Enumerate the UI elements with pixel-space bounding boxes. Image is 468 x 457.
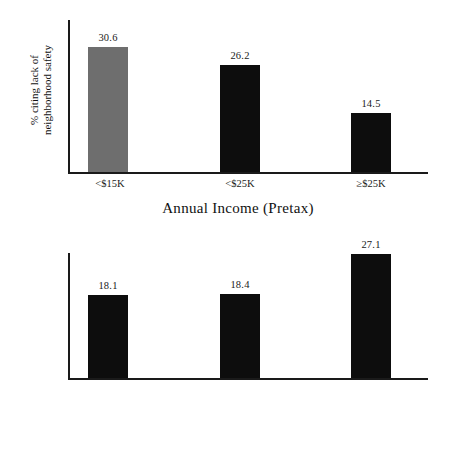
x-tick-label-income-2-text: <$25K (194, 176, 286, 191)
x-tick-label-income-3: ≥$25K (325, 176, 417, 191)
x-axis-line-bmi (68, 378, 428, 380)
bar-group-annual-income: 30.6 26.2 14.5 (70, 20, 398, 172)
bar-value-income-over-25k: 14.5 (327, 98, 415, 110)
y-axis-title-line1-income: % citing lack of (28, 10, 41, 170)
bar-value-income-under-15k: 30.6 (64, 32, 152, 44)
x-axis-line-annual-income (68, 172, 428, 174)
y-axis-title-line2-income: neighborhood safety (41, 10, 54, 170)
x-tick-label-income-1: <$15K (64, 176, 156, 191)
bar-income-over-25k[interactable] (351, 113, 391, 172)
y-axis-title-annual-income: % citing lack of neighborhood safety (28, 10, 54, 170)
bar-bmi-over[interactable] (351, 254, 391, 378)
plot-area-annual-income: 30.6 26.2 14.5 (68, 20, 398, 172)
bar-income-under-15k[interactable] (88, 47, 128, 172)
y-axis-title-line1-bmi: % citing lack of (28, 445, 41, 457)
bar-income-under-25k[interactable] (220, 65, 260, 172)
bar-value-bmi-normal: 18.4 (196, 279, 284, 291)
bar-slot-income-3: 14.5 (351, 20, 391, 172)
x-tick-label-income-2: <$25K (194, 176, 286, 191)
bar-group-bmi: 18.1 18.4 27.1 (70, 253, 398, 378)
bar-slot-bmi-2: 18.4 (220, 253, 260, 378)
chart-panel-body-mass-index: 18.1 18.4 27.1 Under ≤$19 Normal 20–27 O… (0, 230, 468, 457)
x-axis-title-annual-income: Annual Income (Pretax) (68, 200, 408, 217)
bar-value-bmi-over: 27.1 (327, 239, 415, 251)
bar-slot-bmi-3: 27.1 (351, 253, 391, 378)
bar-slot-bmi-1: 18.1 (88, 253, 128, 378)
x-tick-label-income-1-text: <$15K (64, 176, 156, 191)
bar-bmi-normal[interactable] (220, 294, 260, 378)
bar-value-income-under-25k: 26.2 (196, 50, 284, 62)
bar-slot-income-2: 26.2 (220, 20, 260, 172)
plot-area-body-mass-index: 18.1 18.4 27.1 (68, 253, 398, 378)
bar-slot-income-1: 30.6 (88, 20, 128, 172)
bar-value-bmi-under: 18.1 (64, 280, 152, 292)
x-tick-label-income-3-text: ≥$25K (325, 176, 417, 191)
y-axis-title-bmi: % citing lack of neighborhood safety (28, 445, 54, 457)
y-axis-title-line2-bmi: neighborhood safety (41, 445, 54, 457)
bar-bmi-under[interactable] (88, 295, 128, 378)
chart-panel-annual-income: 30.6 26.2 14.5 <$15K <$25K ≥$25K Annual … (0, 0, 468, 230)
